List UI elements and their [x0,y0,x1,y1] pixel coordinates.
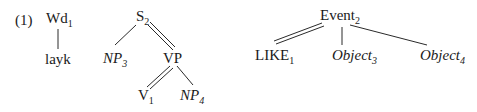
node-object4: Object4 [420,48,465,63]
node-np4: NP4 [180,88,204,103]
node-subscript: 4 [199,95,204,106]
node-like: LIKE1 [255,48,294,63]
edge-s-vp-a [150,22,175,47]
edge-vp-np4 [177,66,193,85]
node-label: Event [320,7,355,23]
edge-event-like-a [274,23,322,41]
node-wd: Wd1 [46,11,73,26]
node-subscript: 2 [355,15,360,26]
node-v: V1 [138,88,154,103]
node-s: S2 [136,9,149,24]
node-subscript: 1 [149,95,154,106]
node-subscript: 2 [144,16,149,27]
example-number-text: (1) [15,12,33,28]
edge-vp-v-a [147,66,170,87]
edge-event-obj4 [350,25,427,45]
edge-event-like-b [276,26,324,44]
node-label: VP [163,50,182,66]
node-layk: S layk [45,52,71,67]
node-label: Object [420,47,460,63]
node-np3: NP3 [103,51,127,66]
edge-s-vp-b [148,25,173,50]
node-subscript: 3 [372,55,377,66]
node-label: NP [180,87,199,103]
node-label: V [138,87,149,103]
node-subscript: 4 [460,55,465,66]
edge-s-np3 [115,25,136,45]
node-event: Event2 [320,8,360,23]
example-number: (1) [15,13,33,28]
edge-vp-v-b [150,68,173,89]
node-label: NP [103,50,122,66]
node-vp: VP [163,51,182,66]
node-label: LIKE [255,47,289,63]
node-object3: Object3 [332,48,377,63]
node-label: Object [332,47,372,63]
node-label: layk [45,51,71,67]
node-label: Wd [46,10,68,26]
node-subscript: 1 [68,18,73,29]
node-subscript: 1 [289,55,294,66]
node-subscript: 3 [122,58,127,69]
